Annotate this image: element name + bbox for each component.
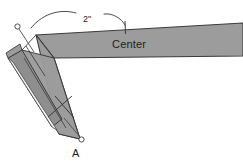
point-a-label: A bbox=[72, 147, 80, 159]
dimension-arc-annotation bbox=[31, 11, 76, 28]
folded-strap-diagram: 2" Center A bbox=[0, 0, 243, 162]
curved-arc-icon bbox=[31, 11, 76, 28]
lower-circle-marker bbox=[79, 137, 84, 142]
center-label: Center bbox=[112, 38, 146, 50]
upper-circle-marker bbox=[15, 24, 20, 29]
diagram-canvas: 2" Center A bbox=[0, 0, 243, 162]
center-tick-mark bbox=[125, 21, 126, 34]
dimension-label: 2" bbox=[83, 14, 91, 24]
curved-arrow-icon bbox=[104, 14, 125, 25]
